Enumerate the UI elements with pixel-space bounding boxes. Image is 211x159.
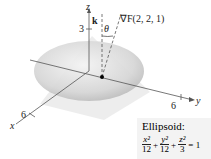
- x-axis-label: x: [10, 121, 14, 131]
- theta-label: θ: [104, 24, 109, 34]
- x-tick-label: 6: [21, 110, 26, 120]
- caption-title: Ellipsoid:: [142, 120, 185, 132]
- equation-caption: Ellipsoid: x²12 + y²12 + z²3 = 1: [137, 118, 211, 159]
- z-axis-label: z: [86, 2, 90, 12]
- theta-arc: [102, 36, 113, 37]
- k-label: k: [92, 16, 98, 26]
- y-tick-label: 6: [171, 101, 176, 111]
- y-axis-label: y: [196, 96, 200, 106]
- gradient-label: ∇F(2, 2, 1): [120, 14, 164, 24]
- ellipsoid-equation: x²12 + y²12 + z²3 = 1: [142, 135, 200, 154]
- z-tick-label: 3: [79, 24, 84, 34]
- point-2-2-1: [100, 75, 104, 79]
